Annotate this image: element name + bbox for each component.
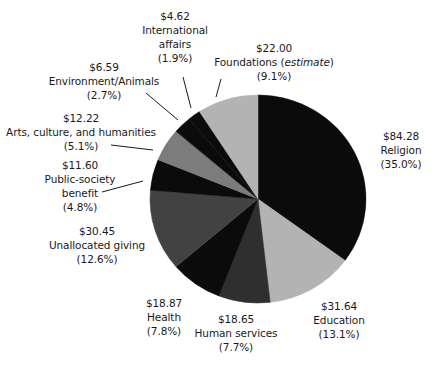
label-health-value: $18.87 (146, 296, 182, 310)
label-international: $4.62 International affairs (1.9%) (142, 9, 208, 65)
label-foundations-value: $22.00 (214, 41, 334, 55)
label-unallocated-pct: (12.6%) (49, 252, 145, 266)
label-health: $18.87 Health (7.8%) (146, 296, 182, 338)
label-health-name: Health (146, 310, 182, 324)
label-environment-name: Environment/Animals (49, 74, 160, 88)
label-unallocated: $30.45 Unallocated giving (12.6%) (49, 224, 145, 266)
label-international-name: International (142, 23, 208, 37)
label-public-value: $11.60 (45, 158, 116, 172)
label-foundations-pct: (9.1%) (214, 69, 334, 83)
label-religion-value: $84.28 (381, 129, 422, 143)
label-education: $31.64 Education (13.1%) (313, 299, 364, 341)
label-public-pct: (4.8%) (45, 200, 116, 214)
label-foundations-name: Foundations (estimate) (214, 55, 334, 69)
label-religion: $84.28 Religion (35.0%) (381, 129, 422, 171)
label-arts-pct: (5.1%) (6, 139, 156, 153)
label-unallocated-value: $30.45 (49, 224, 145, 238)
label-public: $11.60 Public-society benefit (4.8%) (45, 158, 116, 214)
label-arts-value: $12.22 (6, 111, 156, 125)
label-education-value: $31.64 (313, 299, 364, 313)
leader-line-international (183, 77, 191, 108)
label-religion-name: Religion (381, 143, 422, 157)
label-public-name: Public-society (45, 172, 116, 186)
label-arts-name: Arts, culture, and humanities (6, 125, 156, 139)
label-human-pct: (7.7%) (195, 340, 278, 354)
label-human-value: $18.65 (195, 312, 278, 326)
pie-slices (150, 95, 366, 303)
label-environment-value: $6.59 (49, 60, 160, 74)
label-environment: $6.59 Environment/Animals (2.7%) (49, 60, 160, 102)
label-unallocated-name: Unallocated giving (49, 238, 145, 252)
label-human-name: Human services (195, 326, 278, 340)
label-religion-pct: (35.0%) (381, 157, 422, 171)
label-international-name2: affairs (142, 37, 208, 51)
label-international-value: $4.62 (142, 9, 208, 23)
label-education-pct: (13.1%) (313, 327, 364, 341)
label-arts: $12.22 Arts, culture, and humanities (5.… (6, 111, 156, 153)
label-health-pct: (7.8%) (146, 324, 182, 338)
label-public-name2: benefit (45, 186, 116, 200)
label-foundations: $22.00 Foundations (estimate) (9.1%) (214, 41, 334, 83)
label-education-name: Education (313, 313, 364, 327)
label-human-services: $18.65 Human services (7.7%) (195, 312, 278, 354)
label-environment-pct: (2.7%) (49, 88, 160, 102)
